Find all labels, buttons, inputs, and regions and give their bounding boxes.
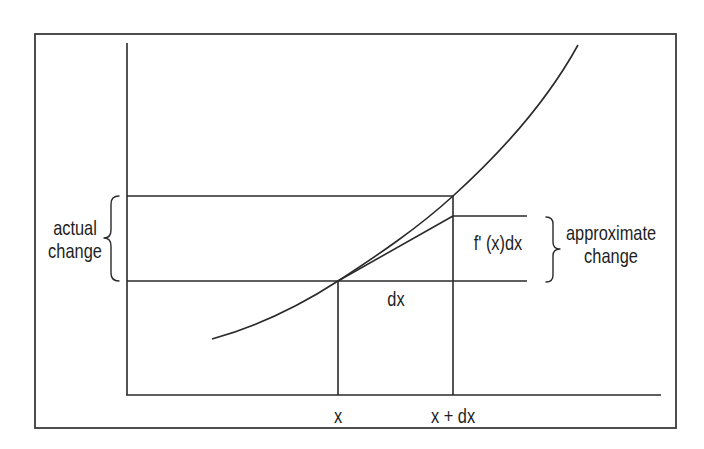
tangent-line bbox=[338, 216, 453, 281]
derivative-term-label: f' (x)dx bbox=[474, 231, 523, 254]
actual-change-label-line2: change bbox=[48, 239, 102, 262]
approximate-change-brace bbox=[546, 217, 560, 282]
approximate-change-label-line1: approximate bbox=[566, 221, 656, 244]
differential-diagram: actual change approximate change f' (x)d… bbox=[0, 0, 704, 449]
approximate-change-label-line2: change bbox=[584, 244, 638, 267]
actual-change-brace bbox=[104, 196, 119, 281]
dx-label: dx bbox=[387, 287, 404, 310]
actual-change-label-line1: actual bbox=[53, 216, 97, 239]
x-tick-label: x bbox=[334, 404, 342, 427]
x-plus-dx-tick-label: x + dx bbox=[431, 404, 475, 427]
